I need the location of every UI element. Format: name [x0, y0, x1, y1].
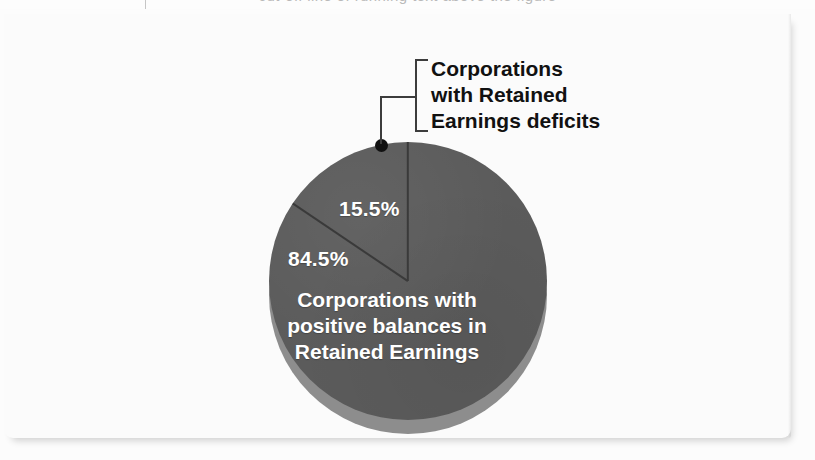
figure-card: 15.5% 84.5% Corporations with positive b…: [4, 14, 791, 438]
callout-label-line1: Corporations: [431, 56, 600, 82]
callout-bracket-icon: [415, 59, 428, 132]
clipped-caption-sliver: cut-off line of running text above the f…: [0, 0, 815, 9]
clipped-caption-text: cut-off line of running text above the f…: [0, 0, 815, 4]
slice-label-positive-line2: positive balances in: [267, 313, 507, 339]
callout-label-line2: with Retained: [431, 82, 600, 108]
callout-leader-horizontal: [380, 96, 417, 98]
callout-bracket-top-arm: [415, 59, 428, 61]
callout-bracket-spine: [415, 59, 417, 132]
callout-label-deficits: Corporations with Retained Earnings defi…: [431, 56, 600, 134]
slice-percent-deficits: 15.5%: [339, 197, 400, 221]
callout-bracket-bottom-arm: [415, 130, 428, 132]
slice-divider-start: [407, 142, 409, 281]
slice-label-positive: Corporations with positive balances in R…: [267, 287, 507, 365]
slice-percent-positive: 84.5%: [288, 247, 349, 271]
slice-label-positive-line3: Retained Earnings: [267, 339, 507, 365]
pie-chart: [266, 128, 552, 434]
callout-label-line3: Earnings deficits: [431, 108, 600, 134]
pie-top-face: [269, 142, 547, 420]
slice-label-positive-line1: Corporations with: [267, 287, 507, 313]
callout-leader-vertical: [380, 96, 382, 144]
